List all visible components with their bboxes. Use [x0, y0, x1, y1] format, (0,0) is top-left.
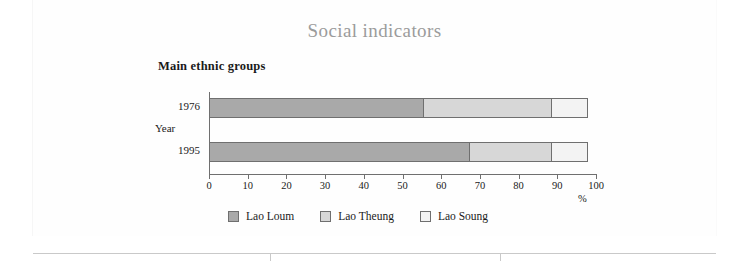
- legend-item[interactable]: Lao Loum: [228, 210, 294, 222]
- x-axis-tick-label: 30: [320, 180, 331, 191]
- legend-label: Lao Theung: [338, 210, 394, 222]
- y-axis-tick-label-1995: 1995: [120, 144, 200, 156]
- chart-legend: Lao LoumLao TheungLao Soung: [228, 210, 488, 222]
- x-axis-tick-label: 70: [475, 180, 486, 191]
- legend-item[interactable]: Lao Theung: [320, 210, 394, 222]
- legend-swatch-icon: [228, 211, 239, 222]
- footer-divider: [33, 253, 716, 254]
- x-axis-tick: [441, 174, 442, 179]
- x-axis-tick: [480, 174, 481, 179]
- legend-label: Lao Loum: [246, 210, 294, 222]
- chart-page: Social indicators Main ethnic groups 197…: [0, 0, 749, 261]
- x-axis-tick: [519, 174, 520, 179]
- x-axis-tick: [209, 174, 210, 179]
- y-axis-tick-label-1976: 1976: [120, 100, 200, 112]
- x-axis-tick: [557, 174, 558, 179]
- x-axis-tick: [325, 174, 326, 179]
- legend-swatch-icon: [420, 211, 431, 222]
- x-axis-tick: [364, 174, 365, 179]
- legend-label: Lao Soung: [438, 210, 488, 222]
- bar-segment: [209, 142, 470, 162]
- x-axis-tick-label: 40: [359, 180, 370, 191]
- x-axis-tick-label: 20: [281, 180, 292, 191]
- bar-segment: [551, 98, 588, 118]
- x-axis-tick-label: 100: [588, 180, 604, 191]
- footer-tick: [270, 253, 271, 261]
- bar-row: [209, 142, 588, 162]
- legend-swatch-icon: [320, 211, 331, 222]
- x-axis-tick-label: 90: [552, 180, 563, 191]
- y-axis-title: Year: [155, 122, 175, 134]
- footer-tick: [500, 253, 501, 261]
- bar-segment: [469, 142, 552, 162]
- x-axis-tick-label: 0: [206, 180, 211, 191]
- chart-title: Social indicators: [0, 20, 749, 42]
- bar-segment: [209, 98, 424, 118]
- bar-row: [209, 98, 588, 118]
- x-axis-tick: [286, 174, 287, 179]
- legend-item[interactable]: Lao Soung: [420, 210, 488, 222]
- x-axis-unit-label: %: [578, 193, 587, 204]
- x-axis-tick-label: 50: [397, 180, 408, 191]
- bar-segment: [551, 142, 588, 162]
- x-axis-tick: [248, 174, 249, 179]
- x-axis-tick-label: 80: [513, 180, 524, 191]
- plot-area: 0102030405060708090100 %: [209, 92, 596, 174]
- x-axis-tick-label: 10: [242, 180, 253, 191]
- x-axis-tick: [403, 174, 404, 179]
- chart-subtitle: Main ethnic groups: [158, 59, 266, 74]
- x-axis-tick: [596, 174, 597, 179]
- bar-segment: [423, 98, 553, 118]
- x-axis-tick-label: 60: [436, 180, 447, 191]
